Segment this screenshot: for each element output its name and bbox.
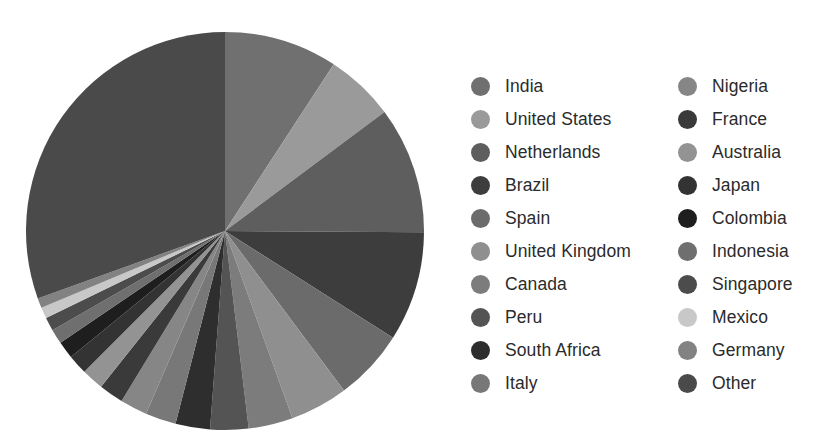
legend-item[interactable]: Australia [669,136,812,169]
legend-item-label: Peru [505,309,542,327]
legend-item[interactable]: Other [669,367,812,400]
legend-item[interactable]: Italy [462,367,669,400]
legend-swatch-icon [471,77,490,96]
legend-item-label: Japan [712,177,760,195]
legend-swatch-icon [471,341,490,360]
legend-item-label: Indonesia [712,243,789,261]
legend-item[interactable]: Spain [462,202,669,235]
legend-item[interactable]: Indonesia [669,235,812,268]
legend-item[interactable]: Colombia [669,202,812,235]
legend-item-label: Nigeria [712,78,768,96]
pie-slice-group [26,32,424,430]
legend-item-label: Singapore [712,276,793,294]
legend-swatch-icon [678,308,697,327]
legend-item[interactable]: Canada [462,268,669,301]
legend-swatch-icon [678,176,697,195]
legend-item[interactable]: Germany [669,334,812,367]
legend-item-label: United States [505,111,611,129]
legend-item-label: France [712,111,767,129]
legend-swatch-icon [678,242,697,261]
legend-item[interactable]: Singapore [669,268,812,301]
legend-item[interactable]: Netherlands [462,136,669,169]
legend-item-label: India [505,78,543,96]
pie-chart-figure: IndiaUnited StatesNetherlandsBrazilSpain… [0,0,819,441]
legend-swatch-icon [678,209,697,228]
legend-item-label: Spain [505,210,550,228]
legend-item-label: Netherlands [505,144,600,162]
legend-swatch-icon [471,242,490,261]
legend-item-label: Australia [712,144,781,162]
legend-item[interactable]: France [669,103,812,136]
legend-swatch-icon [678,143,697,162]
chart-legend: IndiaUnited StatesNetherlandsBrazilSpain… [462,70,812,410]
legend-item-label: Canada [505,276,567,294]
legend-item[interactable]: Japan [669,169,812,202]
legend-swatch-icon [471,143,490,162]
legend-item-label: Colombia [712,210,787,228]
legend-swatch-icon [471,110,490,129]
legend-item-label: Brazil [505,177,549,195]
legend-item-label: Germany [712,342,785,360]
legend-swatch-icon [678,77,697,96]
legend-item[interactable]: India [462,70,669,103]
legend-item[interactable]: Nigeria [669,70,812,103]
legend-item[interactable]: Mexico [669,301,812,334]
legend-item-label: Other [712,375,756,393]
legend-item[interactable]: United States [462,103,669,136]
legend-item[interactable]: South Africa [462,334,669,367]
legend-item-label: South Africa [505,342,601,360]
legend-swatch-icon [471,275,490,294]
legend-swatch-icon [678,275,697,294]
legend-column-left: IndiaUnited StatesNetherlandsBrazilSpain… [462,70,669,410]
legend-item[interactable]: Peru [462,301,669,334]
pie-chart-plot-area [25,31,425,431]
legend-item[interactable]: United Kingdom [462,235,669,268]
legend-item-label: Mexico [712,309,768,327]
legend-swatch-icon [471,374,490,393]
legend-swatch-icon [678,341,697,360]
legend-swatch-icon [678,374,697,393]
legend-swatch-icon [678,110,697,129]
legend-item-label: Italy [505,375,538,393]
legend-item[interactable]: Brazil [462,169,669,202]
pie-chart-svg [25,31,425,431]
legend-swatch-icon [471,209,490,228]
legend-swatch-icon [471,308,490,327]
legend-swatch-icon [471,176,490,195]
legend-column-right: NigeriaFranceAustraliaJapanColombiaIndon… [669,70,812,410]
legend-item-label: United Kingdom [505,243,631,261]
